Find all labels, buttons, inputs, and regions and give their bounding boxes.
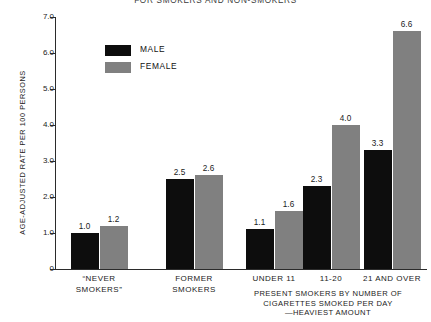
- bar-male-0: [71, 233, 99, 269]
- bar-male-3: [303, 186, 331, 269]
- y-axis-tick-label: 6.0: [43, 48, 54, 57]
- bar-value-label: 2.3: [299, 175, 335, 184]
- y-axis-tick-label: 1.0: [43, 228, 54, 237]
- bar-value-label: 2.6: [191, 164, 227, 173]
- y-axis-tick-mark: [50, 125, 56, 126]
- y-axis-tick: 4.0: [21, 125, 63, 126]
- category-label-4: 21 AND OVER: [347, 274, 431, 285]
- category-label-1: FORMER SMOKERS: [149, 274, 239, 295]
- y-axis-tick-label: 3.0: [43, 156, 54, 165]
- y-axis-tick-mark: [50, 53, 56, 54]
- bar-value-label: 4.0: [328, 114, 364, 123]
- y-axis-tick: 3.0: [21, 161, 63, 162]
- chart-title: FOR SMOKERS AND NON-SMOKERS: [0, 0, 431, 6]
- bar-female-1: [195, 175, 223, 269]
- bar-male-2: [246, 229, 274, 269]
- bar-male-1: [166, 179, 194, 269]
- x-axis-line: [55, 269, 427, 270]
- y-axis-tick-label: 7.0: [43, 12, 54, 21]
- bar-female-2: [275, 211, 303, 269]
- y-axis-tick-label: 0: [50, 264, 54, 273]
- legend-label: FEMALE: [140, 61, 177, 71]
- y-axis-tick-mark: [50, 17, 56, 18]
- y-axis-tick: 0: [21, 269, 63, 270]
- legend-label: MALE: [140, 44, 165, 54]
- bar-chart: FOR SMOKERS AND NON-SMOKERS AGE-ADJUSTED…: [0, 0, 431, 322]
- y-axis-tick: 7.0: [21, 17, 63, 18]
- bar-value-label: 6.6: [389, 20, 425, 29]
- y-axis-tick-label: 2.0: [43, 192, 54, 201]
- legend-swatch-male: [105, 45, 131, 56]
- y-axis-tick: 2.0: [21, 197, 63, 198]
- bar-value-label: 1.6: [271, 200, 307, 209]
- bar-value-label: 1.2: [96, 215, 132, 224]
- y-axis-tick-label: 5.0: [43, 84, 54, 93]
- y-axis-tick-label: 4.0: [43, 120, 54, 129]
- legend-swatch-female: [105, 62, 131, 73]
- y-axis-tick-mark: [50, 161, 56, 162]
- bar-female-3: [332, 125, 360, 269]
- bar-value-label: 3.3: [360, 139, 396, 148]
- x-axis-caption: PRESENT SMOKERS BY NUMBER OF CIGARETTES …: [228, 289, 428, 318]
- y-axis-tick-mark: [50, 233, 56, 234]
- y-axis-tick: 5.0: [21, 89, 63, 90]
- category-label-0: “NEVER SMOKERS”: [54, 274, 144, 295]
- y-axis-tick-mark: [50, 89, 56, 90]
- y-axis-tick: 1.0: [21, 233, 63, 234]
- bar-value-label: 1.1: [242, 218, 278, 227]
- y-axis-tick-mark: [50, 269, 56, 270]
- bar-male-4: [364, 150, 392, 269]
- y-axis-tick-mark: [50, 197, 56, 198]
- bar-female-0: [100, 226, 128, 269]
- bar-female-4: [393, 31, 421, 269]
- y-axis-tick: 6.0: [21, 53, 63, 54]
